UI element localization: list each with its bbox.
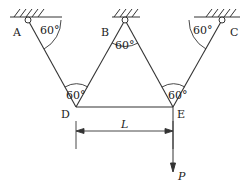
angle-label-C: 60°: [193, 24, 213, 37]
point-label-A: A: [12, 26, 22, 39]
support-B: [112, 9, 140, 17]
point-label-B: B: [101, 26, 109, 39]
support-A: [10, 9, 62, 17]
point-label-E: E: [177, 108, 185, 121]
angle-label-E: 60°: [168, 89, 188, 102]
angle-arc-E: [162, 84, 185, 87]
load-arrow-P: [171, 107, 176, 172]
support-C: [194, 9, 240, 17]
dimension-label-L: L: [120, 118, 128, 131]
angle-label-B: 60°: [115, 39, 135, 52]
angle-label-D: 60°: [66, 89, 86, 102]
member-BE: [125, 20, 173, 107]
arrowhead-left-icon: [76, 129, 84, 134]
pin-C-icon: [219, 17, 225, 23]
arrowhead-down-icon: [171, 163, 176, 172]
load-label-P: P: [177, 170, 186, 183]
point-label-C: C: [230, 26, 238, 39]
angle-label-A: 60°: [40, 24, 60, 37]
point-label-D: D: [61, 108, 70, 121]
arrowhead-right-icon: [165, 129, 173, 134]
pin-A-icon: [25, 17, 31, 23]
angle-arc-D: [65, 84, 88, 87]
truss-diagram: 60° 60° 60° 60° 60° A B C D E L P: [0, 0, 250, 187]
angle-arcs: [44, 20, 206, 87]
pin-B-icon: [122, 17, 128, 23]
